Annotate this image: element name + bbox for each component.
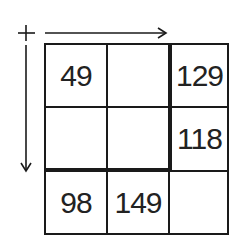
arrow-down-icon [21, 45, 31, 171]
cell-r1c3: 129 [172, 45, 227, 106]
grid-border-bottom [45, 233, 229, 235]
cell-r2c2 [108, 108, 168, 168]
arrow-right-icon [45, 28, 166, 38]
plus-icon [18, 25, 35, 41]
grid-border-right [227, 43, 229, 235]
cell-r1c1: 49 [46, 45, 106, 106]
cell-r3c3 [170, 172, 227, 233]
cell-r2c1 [46, 108, 106, 168]
cell-r3c1: 98 [46, 172, 106, 233]
cell-r1c2 [108, 45, 168, 106]
cell-r3c2: 149 [108, 172, 168, 233]
cell-r2c3: 118 [172, 108, 227, 170]
